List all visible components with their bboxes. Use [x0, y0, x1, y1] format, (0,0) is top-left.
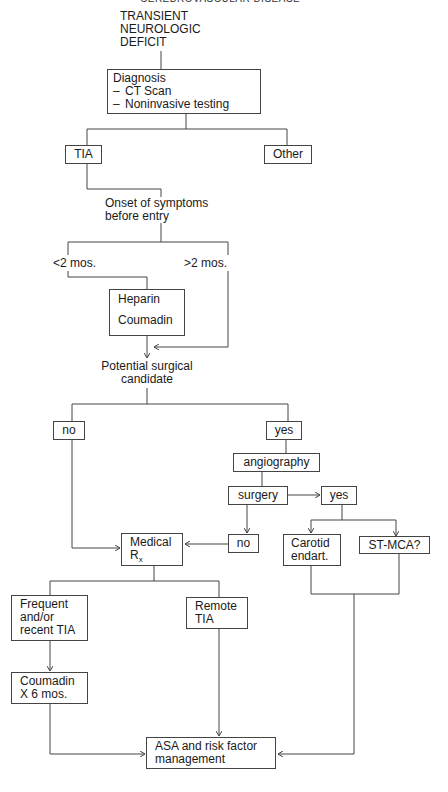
- asa-risk-factor-box: ASA and risk factor management: [146, 737, 276, 769]
- dash-icon: –: [113, 98, 125, 111]
- heparin-label: Heparin: [118, 292, 178, 306]
- greater-than-2-months-label: >2 mos.: [184, 257, 227, 270]
- running-head: CEREBROVASCULAR DISEASE: [140, 0, 300, 4]
- carotid-endarterectomy-box: Carotid endart.: [283, 534, 341, 566]
- start-node-title: TRANSIENT NEUROLOGIC DEFICIT: [120, 10, 201, 49]
- frequent-recent-tia-box: Frequent and/or recent TIA: [11, 595, 88, 641]
- candidate-no-box: no: [53, 421, 85, 440]
- surgery-box: surgery: [228, 486, 288, 505]
- candidate-yes-box: yes: [266, 421, 302, 440]
- surgery-no-box: no: [228, 534, 259, 553]
- coumadin-6-months-box: Coumadin X 6 mos.: [11, 672, 88, 704]
- surgical-candidate-label: Potential surgical candidate: [92, 360, 202, 386]
- coumadin-label: Coumadin: [118, 313, 178, 327]
- less-than-2-months-label: <2 mos.: [53, 257, 96, 270]
- other-box: Other: [264, 145, 312, 164]
- tia-box: TIA: [65, 145, 102, 164]
- medical-rx-box: Medical Rx: [121, 533, 183, 566]
- onset-label: Onset of symptoms before entry: [105, 197, 208, 223]
- heparin-coumadin-box: Heparin Coumadin: [109, 289, 185, 336]
- diagnosis-item: –Noninvasive testing: [113, 98, 254, 111]
- surgery-yes-box: yes: [321, 486, 357, 505]
- title-line: DEFICIT: [120, 36, 201, 49]
- st-mca-box: ST-MCA?: [359, 536, 430, 554]
- remote-tia-box: Remote TIA: [186, 597, 248, 629]
- angiography-box: angiography: [233, 453, 320, 472]
- diagnosis-box: Diagnosis –CT Scan –Noninvasive testing: [107, 69, 261, 114]
